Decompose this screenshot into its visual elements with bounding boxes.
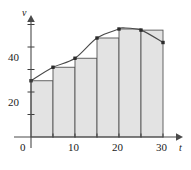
- y-tick-label-20: 20: [8, 97, 19, 108]
- bar-25-30: [141, 30, 163, 137]
- velocity-chart-figure: 40 20 0 10 20 30 v t: [0, 0, 191, 170]
- data-point-t15: [95, 36, 98, 39]
- bar-series: [31, 29, 163, 137]
- data-point-t30: [161, 41, 164, 44]
- bar-15-20: [97, 38, 119, 137]
- data-point-t20: [117, 27, 120, 30]
- x-tick-label-20: 20: [112, 142, 123, 153]
- data-point-t25: [139, 28, 142, 31]
- x-axis-name-label: t: [179, 143, 182, 153]
- x-tick-label-30: 30: [156, 142, 167, 153]
- x-axis-arrow-icon: [176, 133, 183, 141]
- y-axis-arrow-icon: [27, 15, 35, 22]
- x-tick-label-0: 0: [20, 142, 26, 153]
- y-tick-label-40: 40: [8, 52, 19, 63]
- bar-0-5: [31, 81, 53, 137]
- data-point-t5: [51, 66, 54, 69]
- x-tick-label-10: 10: [68, 142, 79, 153]
- y-axis-name-label: v: [22, 8, 26, 18]
- bar-20-25: [119, 29, 141, 137]
- bar-10-15: [75, 58, 97, 137]
- data-point-t10: [73, 57, 76, 60]
- bar-5-10: [53, 67, 75, 137]
